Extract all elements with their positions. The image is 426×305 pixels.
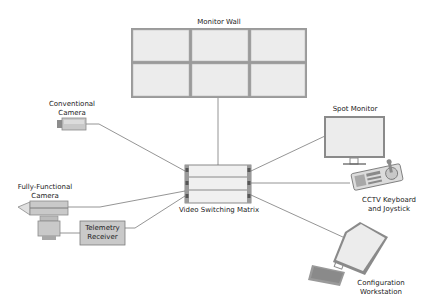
workstation-label: Configuration Workstation xyxy=(350,279,412,296)
monitor-wall xyxy=(131,28,307,98)
fully-functional-camera-icon xyxy=(18,201,68,240)
edge-conventional-camera xyxy=(86,124,185,171)
spot-monitor-icon xyxy=(325,117,384,164)
monitor-wall-label: Monitor Wall xyxy=(180,18,258,27)
matrix-label: Video Switching Matrix xyxy=(176,206,262,215)
workstation-icon xyxy=(308,222,388,286)
edge-spot-monitor xyxy=(251,136,325,171)
video-switching-matrix-icon xyxy=(185,165,251,203)
spot-monitor-label: Spot Monitor xyxy=(324,105,386,114)
cctv-keyboard-label: CCTV Keyboard and Joystick xyxy=(354,196,424,213)
edge-workstation xyxy=(251,195,345,238)
edge-fully-functional-camera xyxy=(68,191,185,207)
telemetry-receiver-label: Telemetry Receiver xyxy=(80,224,125,241)
fully-functional-camera-label: Fully-Functional Camera xyxy=(12,183,78,200)
conventional-camera-icon xyxy=(57,118,86,130)
conventional-camera-label: Conventional Camera xyxy=(44,100,100,117)
diagram-canvas xyxy=(0,0,426,305)
